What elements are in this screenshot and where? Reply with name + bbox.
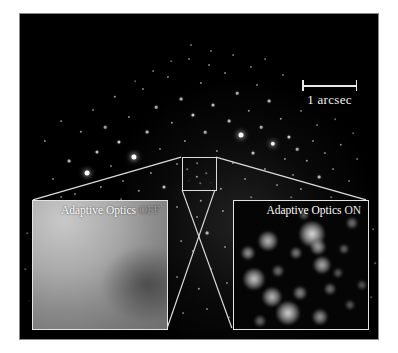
star bbox=[276, 184, 278, 186]
star bbox=[374, 262, 376, 264]
ao-star bbox=[290, 247, 302, 259]
star bbox=[170, 60, 172, 62]
star bbox=[198, 288, 200, 290]
roi-topright-to-right-inset bbox=[216, 157, 366, 200]
ao-star bbox=[345, 300, 355, 310]
star bbox=[236, 92, 239, 95]
star bbox=[232, 54, 234, 56]
star bbox=[287, 135, 290, 138]
star bbox=[138, 190, 140, 192]
star bbox=[191, 113, 194, 116]
star bbox=[271, 142, 275, 146]
ao-star bbox=[254, 315, 266, 327]
star bbox=[44, 140, 46, 142]
ao-star bbox=[310, 239, 326, 255]
star bbox=[210, 182, 211, 183]
star bbox=[74, 193, 76, 195]
star bbox=[205, 172, 207, 174]
roi-bottomright-to-left-inset bbox=[167, 190, 215, 328]
star bbox=[204, 131, 207, 134]
star bbox=[180, 98, 183, 101]
star bbox=[152, 70, 154, 72]
star bbox=[232, 162, 234, 164]
adaptive-optics-figure: 1 arcsec Adaptive Optics OFF Adaptive Op… bbox=[0, 0, 398, 353]
star bbox=[330, 196, 332, 198]
star bbox=[316, 124, 318, 126]
ao-star bbox=[241, 246, 255, 260]
star bbox=[306, 160, 308, 162]
star bbox=[334, 118, 336, 120]
star bbox=[340, 144, 342, 146]
inset-on-label-state: ON bbox=[344, 204, 361, 216]
star bbox=[239, 133, 244, 138]
scale-bar-line bbox=[302, 85, 357, 87]
star bbox=[180, 240, 182, 242]
star bbox=[28, 300, 29, 301]
star bbox=[146, 131, 149, 134]
ao-star bbox=[339, 244, 349, 254]
star bbox=[300, 188, 302, 190]
star bbox=[24, 268, 26, 270]
star bbox=[260, 126, 263, 129]
star bbox=[324, 152, 326, 154]
star bbox=[176, 276, 178, 278]
star bbox=[114, 96, 116, 98]
star bbox=[176, 163, 178, 165]
star bbox=[192, 250, 194, 252]
ao-star bbox=[293, 286, 307, 300]
star bbox=[284, 158, 286, 160]
ao-star bbox=[276, 301, 300, 325]
star bbox=[248, 110, 250, 112]
star bbox=[228, 316, 230, 318]
inset-off-label-state: OFF bbox=[139, 204, 160, 216]
star bbox=[318, 176, 321, 179]
ao-star bbox=[324, 283, 336, 295]
star bbox=[244, 178, 246, 180]
star bbox=[300, 110, 302, 112]
star bbox=[210, 268, 212, 270]
star bbox=[264, 58, 266, 60]
star bbox=[224, 72, 226, 74]
star bbox=[142, 88, 144, 90]
star bbox=[292, 174, 294, 176]
ao-star bbox=[333, 268, 343, 278]
star bbox=[92, 109, 94, 111]
star bbox=[264, 168, 266, 170]
ao-star bbox=[258, 231, 278, 251]
star bbox=[216, 150, 218, 152]
star bbox=[188, 180, 189, 181]
star bbox=[60, 196, 62, 198]
star bbox=[176, 206, 178, 208]
star bbox=[26, 232, 28, 234]
star bbox=[224, 246, 226, 248]
star bbox=[85, 171, 90, 176]
star bbox=[182, 312, 184, 314]
zoom-region-box bbox=[182, 157, 217, 191]
star bbox=[228, 120, 231, 123]
star bbox=[250, 66, 252, 68]
scale-bar-tick-right bbox=[356, 80, 358, 91]
star bbox=[188, 58, 190, 60]
ao-star bbox=[313, 256, 331, 274]
star bbox=[200, 82, 202, 84]
star bbox=[163, 186, 166, 189]
star bbox=[186, 168, 188, 170]
roi-topleft-to-left-inset bbox=[33, 157, 181, 200]
star bbox=[100, 186, 102, 188]
star bbox=[372, 228, 374, 230]
star bbox=[312, 140, 314, 142]
star bbox=[296, 148, 299, 151]
star bbox=[110, 165, 112, 167]
star bbox=[128, 116, 130, 118]
seeing-limited-blur bbox=[32, 200, 168, 330]
scale-bar-label: 1 arcsec bbox=[307, 92, 352, 108]
star bbox=[252, 152, 255, 155]
star bbox=[280, 118, 282, 120]
star bbox=[60, 120, 62, 122]
star bbox=[268, 100, 271, 103]
roi-bottomleft-to-right-inset bbox=[182, 190, 232, 328]
inset-on-label-main: Adaptive Optics bbox=[266, 204, 341, 216]
star bbox=[167, 76, 169, 78]
star bbox=[222, 210, 224, 212]
star bbox=[332, 168, 334, 170]
